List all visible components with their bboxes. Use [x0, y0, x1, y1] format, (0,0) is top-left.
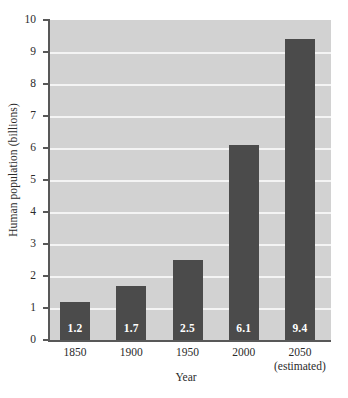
x-axis-tick-label: 2050(estimated) — [265, 345, 335, 374]
x-axis-tick-label-text: 2050 — [288, 346, 311, 358]
x-axis-tick-label-text: 2000 — [232, 346, 255, 358]
y-axis-tick-label: 4 — [6, 206, 36, 218]
y-axis-tick-label: 5 — [6, 174, 36, 186]
population-bar-chart: Human population (billions) 012345678910… — [0, 0, 348, 398]
y-axis-tick-label: 2 — [6, 270, 36, 282]
y-axis-tick — [43, 147, 48, 149]
y-axis-tick — [43, 211, 48, 213]
y-axis-tick — [43, 83, 48, 85]
bar: 9.4 — [285, 39, 315, 340]
y-axis-tick-label: 7 — [6, 110, 36, 122]
bar-value-label: 1.2 — [60, 322, 90, 334]
y-axis-tick-label: 0 — [6, 334, 36, 346]
bar-value-label: 6.1 — [229, 322, 259, 334]
x-axis-tick-label-text: 1900 — [120, 346, 143, 358]
bar: 1.7 — [116, 286, 146, 340]
x-axis-title: Year — [0, 371, 348, 383]
y-axis-tick — [43, 339, 48, 341]
x-axis-tick-label-text: 1850 — [64, 346, 87, 358]
y-axis-tick — [43, 51, 48, 53]
x-axis-line — [48, 340, 331, 342]
y-axis-tick-label: 6 — [6, 142, 36, 154]
bar: 6.1 — [229, 145, 259, 340]
y-axis-tick-label: 10 — [6, 14, 36, 26]
y-axis-tick-label: 1 — [6, 302, 36, 314]
bar: 1.2 — [60, 302, 90, 340]
y-axis-tick — [43, 179, 48, 181]
y-axis-tick-label: 3 — [6, 238, 36, 250]
y-axis-tick — [43, 275, 48, 277]
y-axis-tick — [43, 243, 48, 245]
y-axis-tick — [43, 19, 48, 21]
bar: 2.5 — [173, 260, 203, 340]
y-axis-tick-label: 9 — [6, 46, 36, 58]
bar-value-label: 2.5 — [173, 322, 203, 334]
x-axis-tick-label-text: 1950 — [176, 346, 199, 358]
y-axis-tick — [43, 115, 48, 117]
bar-value-label: 1.7 — [116, 322, 146, 334]
y-axis-tick — [43, 307, 48, 309]
y-axis-tick-label: 8 — [6, 78, 36, 90]
bar-value-label: 9.4 — [285, 322, 315, 334]
x-axis-title-text: Year — [175, 371, 196, 383]
